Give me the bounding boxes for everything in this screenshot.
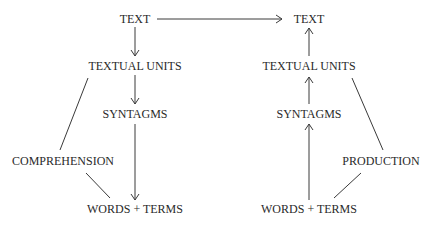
edge-production-to-words: [334, 173, 361, 198]
edge-units-to-production: [352, 78, 383, 150]
node-left-words-terms: WORDS + TERMS: [87, 203, 183, 215]
edge-units-to-comprehension: [60, 78, 88, 150]
node-left-textual-units: TEXTUAL UNITS: [88, 60, 181, 72]
edge-comprehension-to-words: [86, 173, 110, 198]
node-right-text: TEXT: [294, 13, 325, 25]
node-left-syntagms: SYNTAGMS: [102, 108, 167, 120]
node-left-text: TEXT: [120, 13, 151, 25]
diagram-connectors: [0, 0, 444, 229]
node-right-syntagms: SYNTAGMS: [276, 108, 341, 120]
diagram-canvas: TEXT TEXTUAL UNITS SYNTAGMS WORDS + TERM…: [0, 0, 444, 229]
label-production: PRODUCTION: [342, 155, 419, 167]
node-right-words-terms: WORDS + TERMS: [261, 203, 357, 215]
label-comprehension: COMPREHENSION: [12, 155, 114, 167]
node-right-textual-units: TEXTUAL UNITS: [262, 60, 355, 72]
